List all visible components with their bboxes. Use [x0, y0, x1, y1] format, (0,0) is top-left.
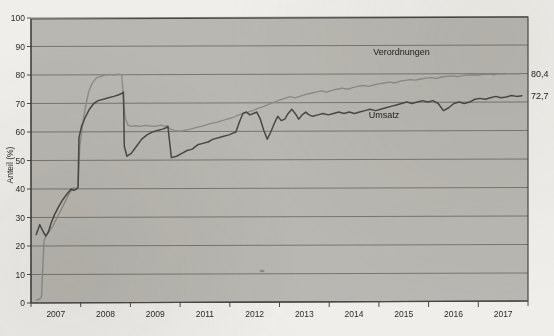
- y-tick-label: 70: [16, 99, 26, 109]
- y-tick-label: 30: [16, 213, 26, 223]
- x-tick-label: 2013: [295, 309, 314, 319]
- verordnungen-endvalue: 80,4: [531, 69, 549, 79]
- line-chart: 0102030405060708090100 20072008200920112…: [0, 0, 554, 336]
- x-tick-label: 2007: [46, 309, 65, 319]
- x-tick-label: 2014: [345, 309, 364, 319]
- y-tick-label: 0: [20, 298, 25, 308]
- y-tick-label: 20: [16, 241, 26, 251]
- x-tick-label: 2016: [444, 309, 463, 319]
- y-tick-label: 80: [16, 70, 26, 80]
- y-axis-title: Anteil (%): [5, 146, 15, 183]
- y-tick-label: 60: [16, 127, 26, 137]
- chart-figure: 0102030405060708090100 20072008200920112…: [0, 0, 554, 336]
- y-tick-label: 10: [16, 270, 26, 280]
- umsatz-endvalue: 72,7: [531, 91, 549, 101]
- x-tick-label: 2011: [196, 309, 215, 319]
- x-tick-label: 2017: [494, 309, 513, 319]
- y-tick-label: 50: [16, 156, 26, 166]
- x-tick-label: 2008: [96, 309, 115, 319]
- scan-speck: [259, 270, 264, 273]
- umsatz-label: Umsatz: [369, 110, 400, 120]
- x-tick-label: 2009: [146, 309, 165, 319]
- y-tick-label: 40: [16, 184, 26, 194]
- x-tick-label: 2015: [394, 309, 413, 319]
- y-tick-label: 100: [11, 13, 25, 23]
- y-tick-label: 90: [16, 42, 26, 52]
- x-tick-label: 2012: [245, 309, 264, 319]
- verordnungen-label: Verordnungen: [373, 47, 430, 57]
- y-axis-title-text: Anteil (%): [5, 146, 15, 183]
